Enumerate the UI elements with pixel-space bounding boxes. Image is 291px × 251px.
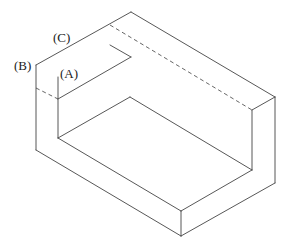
- notch-edge-back: [110, 45, 131, 57]
- floor-edge-front-right: [181, 170, 252, 211]
- edge-right-top-front: [252, 97, 275, 110]
- label-c: (C): [53, 31, 70, 44]
- hidden-edge-top: [110, 25, 252, 110]
- label-b: (B): [14, 59, 31, 72]
- isometric-block-drawing: [0, 0, 291, 251]
- bottom-edge-left: [36, 150, 181, 236]
- bottom-edge-right: [181, 183, 275, 236]
- floor-edge-back-left: [58, 97, 130, 138]
- edge-top-right: [131, 12, 275, 97]
- diagram-canvas: (A) (B) (C): [0, 0, 291, 251]
- floor-edge-back-right: [130, 97, 252, 170]
- label-a: (A): [60, 67, 78, 80]
- hidden-edge-left: [36, 88, 58, 99]
- edge-top-left: [36, 12, 131, 65]
